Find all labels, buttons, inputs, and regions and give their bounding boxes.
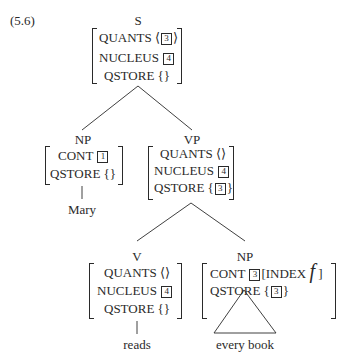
category-label: VP [184, 132, 201, 147]
tag-box: 4 [218, 166, 229, 178]
left-bracket [92, 28, 97, 84]
tag-box: 4 [163, 53, 174, 65]
feature-qstore: QSTORE {} [104, 68, 170, 83]
tag-box: 3 [161, 33, 172, 45]
feature-quants: QUANTS ⟨⟩ [104, 265, 170, 280]
feature-cont: CONT 1 [58, 148, 109, 163]
tag-box: 4 [161, 286, 172, 298]
terminal-word: Mary [68, 202, 96, 217]
right-bracket [331, 263, 336, 319]
feature-nucleus: NUCLEUS 4 [154, 163, 230, 178]
feature-cont: CONT 3[INDEX f ] [210, 264, 323, 281]
tag-box: 3 [249, 269, 260, 281]
feature-nucleus: NUCLEUS 4 [99, 50, 175, 65]
left-bracket [89, 263, 94, 319]
feature-quants: QUANTS ⟨⟩ [160, 146, 226, 161]
category-label: NP [237, 249, 254, 264]
feature-nucleus: NUCLEUS 4 [97, 283, 173, 298]
tag-box: 1 [97, 151, 108, 163]
left-bracket [202, 263, 207, 319]
right-bracket [177, 263, 182, 319]
feature-quants: QUANTS ⟨3⟩ [99, 30, 178, 45]
right-bracket [118, 146, 123, 185]
example-number: (5.6) [10, 13, 35, 28]
category-label: V [132, 249, 141, 264]
feature-qstore: QSTORE {3} [154, 180, 233, 195]
category-label: S [134, 13, 141, 28]
terminal-word: reads [123, 337, 150, 352]
tag-box: 3 [215, 183, 226, 195]
index-variable: f [309, 260, 315, 282]
category-label: NP [75, 132, 92, 147]
feature-qstore: QSTORE {3} [210, 283, 289, 298]
feature-qstore: QSTORE {} [50, 166, 116, 181]
feature-qstore: QSTORE {} [104, 301, 170, 316]
tag-box: 3 [271, 286, 282, 298]
terminal-phrase: every book [216, 337, 274, 352]
left-bracket [148, 146, 153, 200]
